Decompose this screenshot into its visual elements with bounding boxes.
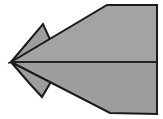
figure-canvas: Paper airplane dart silhouette Gray shad… <box>0 0 163 119</box>
paper-airplane-figure: Paper airplane dart silhouette Gray shad… <box>0 0 163 119</box>
main-body-upper-shape <box>11 5 157 62</box>
nose-apex-point <box>10 61 12 63</box>
